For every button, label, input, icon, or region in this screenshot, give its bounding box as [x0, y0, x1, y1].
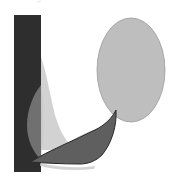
abstract-artwork: [0, 0, 174, 177]
artwork-svg: [0, 0, 174, 177]
faint-top-mark: [37, 1, 41, 2]
light-gray-ellipse: [97, 18, 165, 122]
light-curved-sliver: [41, 57, 68, 150]
